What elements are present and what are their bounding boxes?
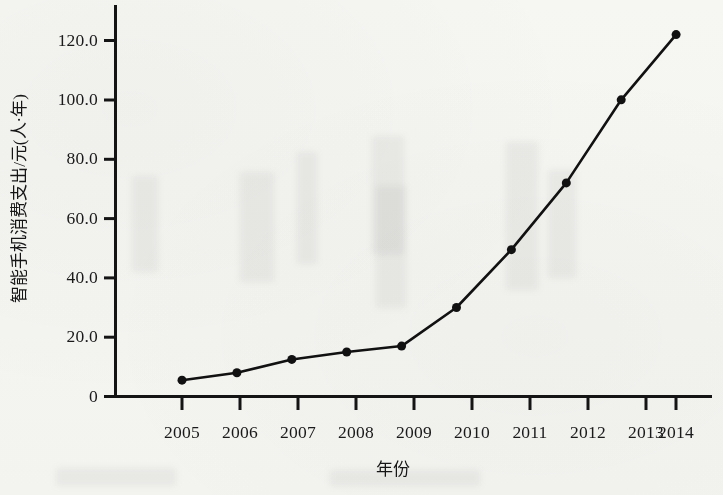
y-tick-label-20: 20.0 bbox=[18, 326, 98, 347]
line-chart-canvas bbox=[0, 0, 723, 495]
data-point-2007 bbox=[287, 355, 296, 364]
data-point-2010 bbox=[452, 303, 461, 312]
data-point-2012 bbox=[562, 178, 571, 187]
data-point-2008 bbox=[342, 348, 351, 357]
y-tick-label-60: 60.0 bbox=[18, 208, 98, 229]
x-axis-title: 年份 bbox=[0, 455, 723, 480]
y-tick-label-120: 120.0 bbox=[18, 30, 98, 51]
y-tick-label-80: 80.0 bbox=[18, 148, 98, 169]
data-point-2009 bbox=[397, 342, 406, 351]
y-tick-label-0: 0 bbox=[18, 386, 98, 407]
x-tick-label-2014: 2014 bbox=[636, 422, 716, 443]
y-tick-label-40: 40.0 bbox=[18, 267, 98, 288]
data-point-2011 bbox=[507, 245, 516, 254]
data-point-2005 bbox=[178, 376, 187, 385]
y-tick-label-100: 100.0 bbox=[18, 89, 98, 110]
y-axis-title: 智能手机消费支出/元(人·年) bbox=[5, 34, 30, 364]
data-point-markers bbox=[178, 30, 681, 385]
data-point-2006 bbox=[232, 368, 241, 377]
data-point-2014 bbox=[672, 30, 681, 39]
data-series-line bbox=[182, 35, 676, 381]
x-axis-ticks bbox=[182, 396, 676, 410]
x-axis-title-text: 年份 bbox=[376, 455, 410, 480]
data-point-2013 bbox=[617, 95, 626, 104]
chart-figure: 120.0 100.0 80.0 60.0 40.0 20.0 0 2005 2… bbox=[0, 0, 723, 495]
